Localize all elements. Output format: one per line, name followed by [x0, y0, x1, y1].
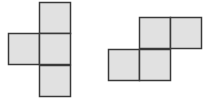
left-figure-square-4 [40, 66, 71, 97]
left-figure-square-3 [40, 34, 71, 65]
left-figure-square-1 [40, 3, 71, 34]
right-figure-square-1 [140, 18, 171, 49]
right-figure-square-3 [109, 50, 140, 81]
left-figure-t-shape [9, 3, 71, 97]
right-figure-square-2 [171, 18, 202, 49]
polyomino-diagram [0, 0, 209, 106]
right-figure-s-shape [109, 18, 202, 81]
right-figure-square-4 [140, 50, 171, 81]
left-figure-square-2 [9, 34, 40, 65]
diagram-canvas [0, 0, 209, 106]
